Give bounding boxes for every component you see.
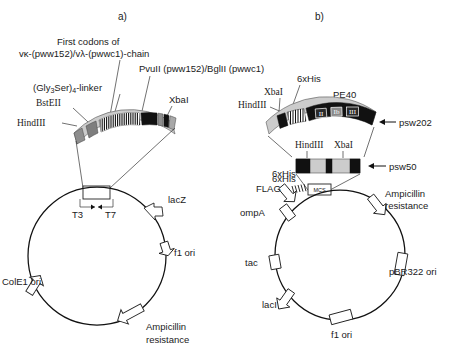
label-ampicillin-a-line2: resistance — [146, 334, 189, 345]
feature-f1-ori-b — [329, 309, 353, 324]
label-ampicillin-a-line1: Ampicillin — [146, 321, 186, 332]
pe40-domain-iii-label: III — [349, 108, 357, 116]
label-t3: T3 — [72, 209, 83, 220]
expansion-line-left-a — [76, 141, 83, 188]
label-psw202: psw202 — [399, 117, 432, 128]
label-flag: FLAG — [256, 183, 281, 194]
t3-arrowhead — [91, 205, 95, 210]
leader-xbai-psw202 — [279, 98, 280, 112]
label-6xhis-plasmid-b: 6xHis — [272, 168, 296, 179]
label-xbai-a: XbaI — [169, 94, 189, 105]
feature-lacz — [144, 203, 163, 220]
label-lacz: lacZ — [168, 194, 186, 205]
psw50-block-right — [350, 159, 360, 173]
label-f1-ori-a: f1 ori — [174, 247, 195, 258]
label-hindiii-psw202: HindIII — [238, 100, 267, 110]
feature-ampicillin-a — [114, 300, 146, 327]
construct-bar-a — [74, 108, 176, 144]
pe40-domain-ii-label: II — [319, 110, 324, 118]
pe40-domain-ib-label: Ib — [334, 108, 340, 116]
label-xbai-psw202: XbaI — [264, 87, 283, 97]
feature-f1-ori-a — [156, 240, 176, 258]
expansion-line-right-a — [110, 128, 175, 188]
label-ampicillin-b-line1: Ampicillin — [385, 188, 425, 199]
expansion-line-right-b2 — [330, 174, 360, 190]
psw50-pointer — [368, 163, 386, 169]
label-hindiii-a: HindIII — [17, 118, 46, 128]
panel-b-title: b) — [315, 11, 324, 22]
psw50-block-mid — [326, 159, 332, 173]
t7-arrowhead — [98, 205, 102, 210]
label-bstell: BstEII — [36, 98, 61, 108]
label-pbr322-ori: pBR322 ori — [389, 266, 437, 277]
label-gly3ser-overlay: (Gly3Ser)4-linker — [33, 82, 102, 94]
6xhis-hatch-mcs — [292, 184, 306, 193]
panel-a-title: a) — [118, 11, 127, 22]
label-cole1-ori: ColE1 ori — [2, 276, 41, 287]
feature-ompa — [279, 204, 295, 221]
label-laci: lacI — [262, 299, 277, 310]
label-first-codons-line2: vκ-(pww152)/vλ-(pwwc1)-chain — [19, 48, 149, 59]
label-6xhis-psw202: 6xHis — [297, 73, 321, 84]
figure-canvas: a) b) First codons of vκ-(pww152)/vλ-(pw… — [0, 0, 455, 354]
psw50-block-left — [296, 159, 310, 173]
label-first-codons-line1: First codons of — [57, 36, 120, 47]
leader-hindiii-a — [62, 123, 77, 126]
label-psw50: psw50 — [389, 161, 416, 172]
psw202-pointer — [379, 119, 396, 125]
leader-bstell — [73, 108, 88, 122]
expansion-line-right-b1 — [364, 127, 374, 157]
label-tac: tac — [245, 257, 258, 268]
label-f1-ori-b: f1 ori — [331, 329, 352, 340]
psw50-bar — [296, 159, 360, 173]
label-pvuii-bglii: PvuII (pww152)/BglII (pwwc1) — [139, 63, 264, 74]
label-xbai-psw50: XbaI — [334, 140, 353, 150]
label-t7: T7 — [105, 209, 116, 220]
expansion-line-left-b1 — [268, 136, 292, 157]
label-ompa: ompA — [240, 207, 265, 218]
label-ampicillin-b-line2: resistance — [385, 200, 428, 211]
feature-tac — [269, 254, 281, 270]
psw202-bar: II Ib III — [266, 97, 376, 134]
plasmid-figure-svg: a) b) First codons of vκ-(pww152)/vλ-(pw… — [0, 0, 455, 354]
label-hindiii-psw50: HindIII — [295, 140, 324, 150]
